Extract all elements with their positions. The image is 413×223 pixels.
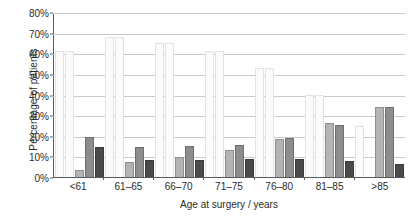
y-tick-label: 70% xyxy=(29,28,49,39)
y-tick-mark xyxy=(50,157,53,158)
bar xyxy=(85,137,94,177)
bar xyxy=(225,150,234,177)
bar xyxy=(175,157,184,178)
y-tick-label: 10% xyxy=(29,152,49,163)
bar xyxy=(165,43,174,177)
bar-group xyxy=(154,13,204,177)
x-tick-label: <61 xyxy=(53,181,103,192)
x-tick-mark xyxy=(304,177,305,180)
bar xyxy=(275,139,284,177)
y-tick-label: 20% xyxy=(29,131,49,142)
x-tick-mark xyxy=(254,177,255,180)
bar xyxy=(215,51,224,177)
x-tick-mark xyxy=(153,177,154,180)
y-tick-label: 50% xyxy=(29,69,49,80)
x-tick-label: 61–65 xyxy=(103,181,153,192)
x-tick-label: >85 xyxy=(355,181,405,192)
y-tick-label: 0% xyxy=(35,173,49,184)
bar xyxy=(65,51,74,177)
y-tick-mark xyxy=(50,74,53,75)
y-tick-label: 40% xyxy=(29,90,49,101)
bar-group xyxy=(204,13,254,177)
y-tick-label: 80% xyxy=(29,8,49,19)
x-tick-label: 71–75 xyxy=(204,181,254,192)
bar-group xyxy=(104,13,154,177)
bar xyxy=(125,162,134,177)
plot-area: 0%10%20%30%40%50%60%70%80% xyxy=(53,13,405,178)
x-axis-line xyxy=(53,177,405,178)
y-tick-mark xyxy=(50,178,53,179)
bar xyxy=(235,145,244,177)
bar xyxy=(265,68,274,177)
bar xyxy=(95,147,104,177)
bar xyxy=(315,95,324,177)
bar xyxy=(115,37,124,177)
y-tick-mark xyxy=(50,116,53,117)
bar xyxy=(355,126,364,177)
y-tick-label: 60% xyxy=(29,49,49,60)
bar xyxy=(295,159,304,177)
bar xyxy=(375,107,384,177)
bar xyxy=(245,159,254,177)
bar xyxy=(55,51,64,177)
bar xyxy=(345,161,354,177)
bar xyxy=(205,51,214,177)
bar xyxy=(255,68,264,177)
x-axis-title: Age at surgery / years xyxy=(53,199,405,210)
bar xyxy=(285,138,294,177)
bar xyxy=(75,170,84,177)
x-tick-mark xyxy=(103,177,104,180)
bar xyxy=(325,123,334,177)
y-tick-mark xyxy=(50,54,53,55)
bar xyxy=(145,160,154,177)
x-tick-label: 66–70 xyxy=(154,181,204,192)
bar xyxy=(155,43,164,177)
bar-group xyxy=(54,13,104,177)
bar-group xyxy=(305,13,355,177)
bar xyxy=(105,37,114,177)
y-tick-label: 30% xyxy=(29,111,49,122)
bar xyxy=(195,160,204,177)
x-tick-label: 76–80 xyxy=(254,181,304,192)
y-tick-mark xyxy=(50,13,53,14)
bar xyxy=(135,147,144,177)
y-tick-mark xyxy=(50,136,53,137)
bar-group xyxy=(355,13,405,177)
bar xyxy=(385,107,394,177)
x-tick-labels: <6161–6566–7071–7576–8081–85>85 xyxy=(53,181,405,192)
bar-groups xyxy=(54,13,405,177)
x-tick-label: 81–85 xyxy=(304,181,354,192)
bar xyxy=(395,164,404,177)
bar xyxy=(185,146,194,177)
bar xyxy=(335,125,344,177)
y-tick-mark xyxy=(50,95,53,96)
bar-chart: Percentage of patients 0%10%20%30%40%50%… xyxy=(0,0,413,223)
bar xyxy=(305,95,314,177)
bar-group xyxy=(255,13,305,177)
x-tick-mark xyxy=(354,177,355,180)
x-tick-mark xyxy=(203,177,204,180)
y-tick-mark xyxy=(50,33,53,34)
